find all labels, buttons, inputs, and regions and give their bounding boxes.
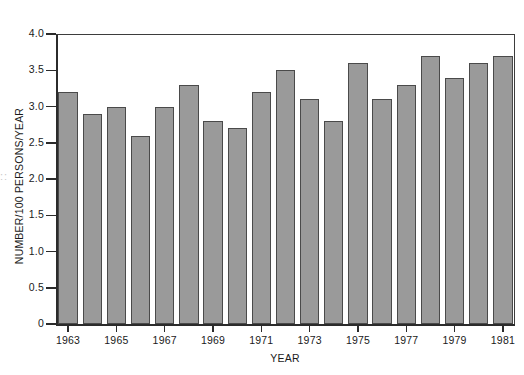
y-tick-label: 2.5 <box>29 136 44 148</box>
y-tick-mark <box>46 106 56 108</box>
y-tick-label: 1.5 <box>29 208 44 220</box>
x-tick-mark <box>164 325 165 332</box>
bar <box>131 136 150 325</box>
bar <box>179 85 198 324</box>
y-tick-mark <box>46 70 56 72</box>
x-tick-label: 1973 <box>290 334 330 346</box>
x-tick-label: 1969 <box>193 334 233 346</box>
x-tick-mark <box>406 325 407 332</box>
bar <box>324 121 343 324</box>
bar <box>252 92 271 324</box>
x-axis-title: YEAR <box>55 352 515 364</box>
bar <box>300 99 319 324</box>
y-tick-label: 1.0 <box>29 245 44 257</box>
bar <box>107 107 126 325</box>
bar <box>58 92 77 324</box>
x-tick-label: 1975 <box>338 334 378 346</box>
x-tick-mark <box>212 325 213 332</box>
bar <box>445 78 464 325</box>
bar <box>348 63 367 324</box>
x-tick-label: 1971 <box>241 334 281 346</box>
bar <box>421 56 440 324</box>
x-tick-mark <box>116 325 117 332</box>
y-tick-mark <box>46 287 56 289</box>
y-tick-label: 4.0 <box>29 27 44 39</box>
x-tick-mark <box>357 325 358 332</box>
x-tick-label: 1979 <box>435 334 475 346</box>
bar <box>276 70 295 324</box>
y-tick-label: 3.0 <box>29 100 44 112</box>
y-tick-mark <box>46 215 56 217</box>
y-tick-mark <box>46 323 56 325</box>
y-tick-label: 0 <box>38 317 44 329</box>
y-tick-mark <box>46 142 56 144</box>
y-tick-label: 0.5 <box>29 281 44 293</box>
x-tick-mark <box>67 325 68 332</box>
y-tick-label: 3.5 <box>29 63 44 75</box>
bar-chart-figure: :: NUMBER/100 PERSONS/YEAR 00.51.01.52.0… <box>0 0 524 375</box>
y-tick-mark <box>46 178 56 180</box>
bar <box>397 85 416 324</box>
x-tick-mark <box>261 325 262 332</box>
bar <box>203 121 222 324</box>
bar <box>155 107 174 325</box>
x-tick-label: 1981 <box>483 334 523 346</box>
bar <box>469 63 488 324</box>
y-tick-label: 2.0 <box>29 172 44 184</box>
bar <box>493 56 512 324</box>
x-axis-line <box>56 324 515 326</box>
y-tick-mark <box>46 251 56 253</box>
bar <box>228 128 247 324</box>
bar <box>372 99 391 324</box>
x-tick-mark <box>309 325 310 332</box>
x-tick-mark <box>502 325 503 332</box>
x-tick-label: 1967 <box>145 334 185 346</box>
y-axis-title-text: NUMBER/100 PERSONS/YEAR <box>13 86 25 286</box>
x-tick-label: 1963 <box>48 334 88 346</box>
y-tick-mark <box>46 33 56 35</box>
x-tick-mark <box>454 325 455 332</box>
y-axis-title: NUMBER/100 PERSONS/YEAR <box>13 0 27 86</box>
x-tick-label: 1965 <box>96 334 136 346</box>
x-tick-label: 1977 <box>386 334 426 346</box>
bar <box>83 114 102 324</box>
scan-edge-artifact: :: <box>0 168 10 184</box>
